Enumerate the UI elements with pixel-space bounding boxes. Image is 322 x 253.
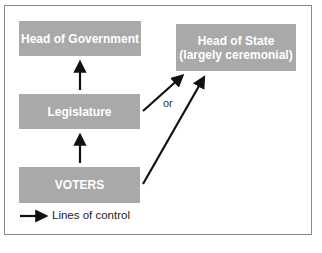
arrows-layer xyxy=(0,0,322,253)
arrow-legislature-to-head-of-state xyxy=(143,77,181,111)
arrow-voters-to-head-of-state xyxy=(143,79,203,184)
or-label: or xyxy=(163,97,173,109)
legend-label: Lines of control xyxy=(52,209,130,221)
